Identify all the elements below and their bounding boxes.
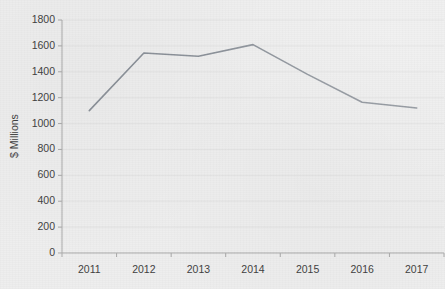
x-tick-label: 2016 [337, 264, 387, 275]
y-tick-label: 200 [37, 221, 55, 232]
x-tick-label: 2013 [173, 264, 223, 275]
y-tick-marks-group [58, 20, 62, 253]
x-tick-label: 2012 [119, 264, 169, 275]
x-tick-label: 2014 [228, 264, 278, 275]
x-tick-label: 2011 [64, 264, 114, 275]
x-tick-marks-group [62, 253, 444, 257]
y-axis-title: $ Millions [8, 106, 20, 166]
x-tick-label: 2017 [392, 264, 442, 275]
y-tick-label: 1000 [32, 118, 55, 129]
data-series-line [89, 45, 416, 111]
y-tick-label: 0 [49, 247, 55, 258]
y-tick-label: 1600 [32, 40, 55, 51]
plot-area [0, 0, 445, 289]
y-tick-label: 1400 [32, 66, 55, 77]
y-tick-label: 800 [37, 143, 55, 154]
y-tick-label: 1800 [32, 14, 55, 25]
y-tick-label: 1200 [32, 92, 55, 103]
x-tick-label: 2015 [283, 264, 333, 275]
line-chart-figure: 180016001400120010008006004002000 201120… [0, 0, 445, 289]
y-tick-label: 400 [37, 195, 55, 206]
y-tick-label: 600 [37, 169, 55, 180]
gridlines-group [62, 20, 444, 227]
